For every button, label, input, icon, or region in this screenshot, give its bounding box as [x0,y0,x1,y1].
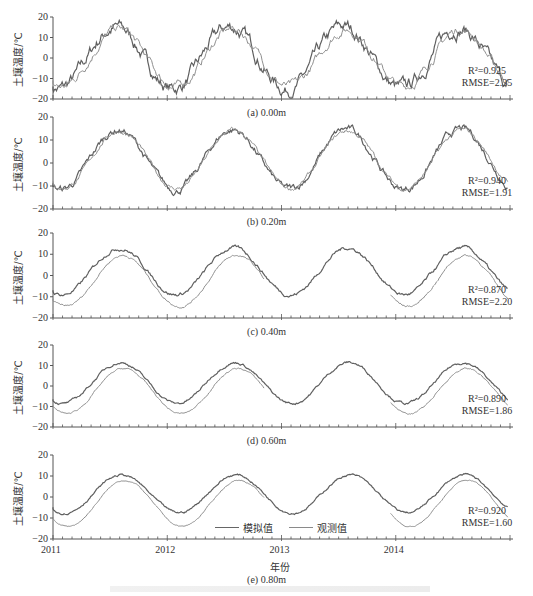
rmse-value: RMSE=1.60 [452,517,522,529]
y-tick-label: −10 [22,512,48,523]
y-tick-label: −10 [22,291,48,302]
x-tick-label: 2013 [270,544,290,555]
y-tick-label: −10 [22,180,48,191]
y-tick-label: −10 [22,73,48,84]
y-tick-label: 10 [22,32,48,43]
x-tick-label: 2011 [41,544,61,555]
series-simulated [53,473,508,514]
panel-caption: (a) 0.00m [0,107,533,118]
y-axis-label: 土壤温度/℃ [10,242,25,312]
series-simulated [53,20,508,98]
y-tick-label: 0 [22,52,48,63]
y-tick-label: 10 [22,134,48,145]
panel-caption: (d) 0.60m [0,435,533,446]
y-tick-label: −20 [22,93,48,104]
figure-caption-faint [110,586,430,592]
r-squared-value: R²=0.940 [452,175,522,187]
y-tick-label: −20 [22,312,48,323]
rmse-value: RMSE=1.86 [452,405,522,417]
y-tick-label: 20 [22,339,48,350]
y-tick-label: −20 [22,421,48,432]
y-axis-label: 土壤温度/℃ [10,464,25,534]
y-tick-label: −20 [22,203,48,214]
legend-label-simulated: 模拟值 [243,520,273,535]
series-observed [53,255,264,308]
panel-caption: (e) 0.80m [0,574,533,585]
y-tick-label: 0 [22,270,48,281]
legend: 模拟值 观测值 [215,520,347,535]
rmse-value: RMSE=2.35 [452,77,522,89]
panel-caption: (c) 0.40m [0,326,533,337]
x-axis-label: 年份 [270,559,290,574]
y-axis-label: 土壤温度/℃ [10,130,25,200]
legend-swatch-observed [289,527,313,528]
y-tick-label: 10 [22,248,48,259]
y-axis-label: 土壤温度/℃ [10,25,25,95]
y-tick-label: 0 [22,157,48,168]
panel-caption: (b) 0.20m [0,216,533,227]
y-tick-label: 10 [22,360,48,371]
y-tick-label: 20 [22,449,48,460]
r-squared-value: R²=0.890 [452,393,522,405]
series-simulated [53,125,508,196]
y-tick-label: 0 [22,491,48,502]
y-tick-label: 10 [22,470,48,481]
r-squared-value: R²=0.870 [452,284,522,296]
legend-label-observed: 观测值 [317,520,347,535]
y-tick-label: 0 [22,380,48,391]
rmse-value: RMSE=2.20 [452,296,522,308]
series-simulated [53,245,508,297]
y-tick-label: −10 [22,401,48,412]
y-tick-label: 20 [22,111,48,122]
y-tick-label: −20 [22,533,48,544]
rmse-value: RMSE=1.91 [452,187,522,199]
x-tick-label: 2014 [384,544,404,555]
y-tick-label: 20 [22,227,48,238]
y-axis-label: 土壤温度/℃ [10,353,25,423]
legend-swatch-simulated [215,527,239,528]
r-squared-value: R²=0.925 [452,65,522,77]
r-squared-value: R²=0.920 [452,505,522,517]
x-tick-label: 2012 [155,544,175,555]
y-tick-label: 20 [22,11,48,22]
